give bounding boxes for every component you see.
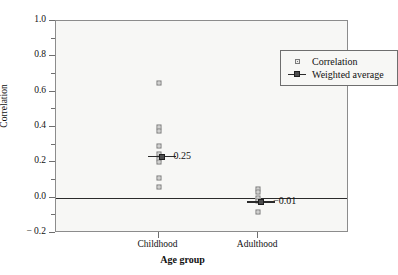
y-axis-tick xyxy=(49,232,55,233)
weighted-average-marker-icon xyxy=(285,71,309,79)
weighted-average-value-label: −0.01 xyxy=(273,195,296,206)
y-axis-minor-tick xyxy=(51,73,55,74)
x-axis-title: Age group xyxy=(0,254,365,265)
data-point xyxy=(256,190,261,195)
weighted-average-value-label: 0.25 xyxy=(174,149,192,160)
zero-reference-line xyxy=(56,198,347,199)
y-axis-minor-tick xyxy=(51,38,55,39)
x-axis-tick xyxy=(158,232,159,238)
y-axis-minor-tick xyxy=(51,179,55,180)
y-axis-tick-label: 0.8 xyxy=(34,50,46,60)
plot-area: 0.25−0.01 Correlation Weighted average xyxy=(55,20,348,232)
data-point xyxy=(156,176,161,181)
legend-item-correlation: Correlation xyxy=(285,55,392,68)
y-axis-tick-label: 0.6 xyxy=(34,86,46,96)
y-axis-minor-tick xyxy=(51,214,55,215)
legend-label-weighted-average: Weighted average xyxy=(309,69,384,80)
chart-legend: Correlation Weighted average xyxy=(280,50,398,86)
y-axis-minor-tick xyxy=(51,144,55,145)
y-axis-tick-label: 0.2 xyxy=(34,156,46,166)
x-axis-tick-label-childhood: Childhood xyxy=(137,240,177,250)
y-axis-tick xyxy=(49,197,55,198)
y-axis-tick-label: 0.4 xyxy=(34,121,46,131)
y-axis-title: Correlation xyxy=(0,84,9,127)
data-point xyxy=(256,209,261,214)
x-axis-tick xyxy=(257,232,258,238)
data-point xyxy=(156,80,161,85)
open-square-icon xyxy=(285,59,309,64)
y-axis-tick xyxy=(49,55,55,56)
y-axis-tick-label: 0.0 xyxy=(34,192,46,202)
data-point xyxy=(156,144,161,149)
x-axis-tick-label-adulthood: Adulthood xyxy=(237,240,278,250)
y-axis-tick xyxy=(49,91,55,92)
y-axis-minor-tick xyxy=(51,108,55,109)
y-axis-tick-label: 1.0 xyxy=(34,15,46,25)
data-point xyxy=(156,185,161,190)
y-axis-tick xyxy=(49,20,55,21)
legend-label-correlation: Correlation xyxy=(309,56,358,67)
y-axis-tick-label: − 0.2 xyxy=(26,227,46,237)
y-axis-tick xyxy=(49,126,55,127)
data-point xyxy=(156,160,161,165)
data-point xyxy=(156,128,161,133)
y-axis-tick xyxy=(49,161,55,162)
legend-item-weighted-average: Weighted average xyxy=(285,68,392,81)
